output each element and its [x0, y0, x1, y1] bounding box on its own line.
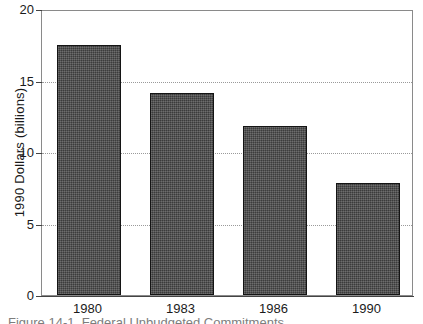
y-axis-tick: [36, 296, 42, 297]
y-axis-tick-label: 15: [4, 75, 34, 88]
y-axis-tick-label: 0: [4, 289, 34, 302]
x-axis-tick-label: 1990: [332, 302, 402, 316]
y-axis-tick-label: 20: [4, 3, 34, 16]
y-axis-tick-label: 5: [4, 218, 34, 231]
bar: [57, 45, 121, 295]
bar-chart-figure: 1990 Dollars (billions) 05101520 1980198…: [0, 0, 423, 324]
y-axis-tick: [36, 10, 42, 11]
x-axis-tick-label: 1986: [239, 302, 309, 316]
x-axis-line: [41, 296, 414, 297]
plot-area: [41, 10, 413, 296]
y-axis-tick: [36, 82, 42, 83]
bar: [150, 93, 214, 295]
figure-caption: Figure 14-1. Federal Unbudgeted Commitme…: [8, 316, 308, 324]
y-axis-tick-label: 10: [4, 146, 34, 159]
x-axis-tick-label: 1980: [53, 302, 123, 316]
bar: [336, 183, 400, 295]
bar: [243, 126, 307, 295]
y-axis-tick: [36, 225, 42, 226]
x-axis-tick-label: 1983: [146, 302, 216, 316]
y-axis-tick: [36, 153, 42, 154]
y-axis-tick-labels: 05101520: [0, 0, 34, 324]
